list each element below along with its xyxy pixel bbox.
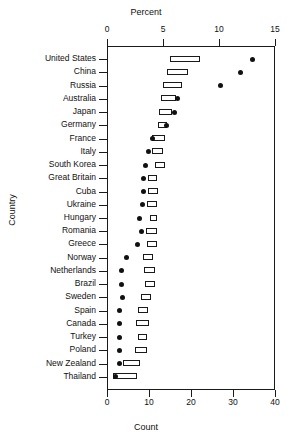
percent-point-marker — [172, 110, 177, 115]
country-axis-label: Netherlands — [50, 266, 96, 275]
country-tick-mark — [99, 178, 107, 179]
country-tick-mark — [99, 192, 107, 193]
country-axis-label: Brazil — [75, 279, 96, 288]
percent-point-marker — [143, 163, 148, 168]
count-range-bar — [159, 109, 172, 115]
percent-tick-label: 5 — [148, 24, 178, 34]
country-axis-label: Thailand — [63, 372, 96, 381]
country-axis-label: Canada — [66, 319, 96, 328]
count-tick-label: 40 — [260, 397, 290, 407]
percent-point-marker — [117, 361, 122, 366]
count-tick-mark — [233, 390, 234, 397]
count-range-bar — [150, 215, 157, 221]
country-tick-mark — [99, 125, 107, 126]
country-axis-label: Ukraine — [67, 200, 96, 209]
country-axis-label: Romania — [62, 226, 96, 235]
country-tick-mark — [99, 99, 107, 100]
count-range-bar — [145, 281, 155, 287]
country-tick-mark — [99, 337, 107, 338]
percent-point-marker — [164, 123, 169, 128]
country-axis-label: United States — [45, 54, 96, 63]
count-tick-label: 0 — [92, 397, 122, 407]
bottom-axis-title: Count — [0, 422, 292, 432]
count-range-bar — [155, 162, 165, 168]
count-range-bar — [148, 175, 157, 181]
count-tick-label: 30 — [218, 397, 248, 407]
country-tick-mark — [99, 377, 107, 378]
count-range-bar — [170, 56, 200, 62]
country-axis-label: Australia — [63, 94, 96, 103]
count-range-bar — [144, 267, 155, 273]
percent-point-marker — [117, 308, 122, 313]
country-tick-mark — [99, 271, 107, 272]
count-range-bar — [147, 201, 157, 207]
country-tick-mark — [99, 297, 107, 298]
top-axis-title: Percent — [0, 7, 292, 17]
chart-figure: Percent Country Count 010203040051015Uni… — [0, 0, 292, 441]
count-tick-mark — [149, 390, 150, 397]
country-tick-mark — [99, 350, 107, 351]
country-axis-label: Germany — [61, 120, 96, 129]
country-axis-label: Norway — [67, 253, 96, 262]
count-range-bar — [143, 254, 153, 260]
percent-tick-mark — [219, 39, 220, 46]
percent-tick-mark — [163, 39, 164, 46]
country-axis-label: Poland — [70, 345, 96, 354]
country-axis-label: South Korea — [49, 160, 96, 169]
country-tick-mark — [99, 152, 107, 153]
count-tick-mark — [275, 390, 276, 397]
country-tick-mark — [99, 284, 107, 285]
count-range-bar — [152, 148, 163, 154]
percent-tick-label: 0 — [92, 24, 122, 34]
country-axis-label: Japan — [73, 107, 96, 116]
count-tick-label: 10 — [134, 397, 164, 407]
country-axis-label: Greece — [68, 239, 96, 248]
percent-point-marker — [117, 348, 122, 353]
country-tick-mark — [99, 258, 107, 259]
percent-point-marker — [238, 70, 243, 75]
percent-tick-label: 15 — [260, 24, 290, 34]
count-range-bar — [161, 95, 176, 101]
count-range-bar — [123, 360, 140, 366]
count-range-bar — [146, 228, 157, 234]
country-tick-mark — [99, 139, 107, 140]
country-tick-mark — [99, 72, 107, 73]
country-tick-mark — [99, 86, 107, 87]
count-range-bar — [167, 69, 188, 75]
count-range-bar — [138, 334, 147, 340]
count-range-bar — [163, 82, 182, 88]
country-axis-label: Spain — [74, 306, 96, 315]
country-tick-mark — [99, 218, 107, 219]
percent-point-marker — [124, 255, 129, 260]
country-tick-mark — [99, 165, 107, 166]
country-axis-label: Great Britain — [48, 173, 96, 182]
country-tick-mark — [99, 231, 107, 232]
percent-point-marker — [135, 242, 140, 247]
count-tick-label: 20 — [176, 397, 206, 407]
country-axis-label: Italy — [80, 147, 96, 156]
country-axis-label: Turkey — [70, 332, 96, 341]
count-tick-mark — [107, 390, 108, 397]
count-range-bar — [136, 320, 149, 326]
country-axis-label: France — [70, 134, 96, 143]
percent-point-marker — [119, 282, 124, 287]
country-axis-label: China — [74, 67, 96, 76]
count-tick-mark — [191, 390, 192, 397]
country-tick-mark — [99, 112, 107, 113]
percent-tick-mark — [275, 39, 276, 46]
count-range-bar — [138, 307, 148, 313]
count-range-bar — [148, 188, 158, 194]
country-axis-label: Russia — [70, 81, 96, 90]
count-range-bar — [147, 241, 157, 247]
country-tick-mark — [99, 364, 107, 365]
percent-tick-mark — [107, 39, 108, 46]
plot-area — [107, 46, 275, 390]
country-axis-label: Sweden — [65, 292, 96, 301]
percent-point-marker — [137, 216, 142, 221]
percent-tick-label: 10 — [204, 24, 234, 34]
country-tick-mark — [99, 324, 107, 325]
percent-point-marker — [139, 229, 144, 234]
country-axis-label: Cuba — [76, 187, 96, 196]
percent-point-marker — [250, 57, 255, 62]
percent-point-marker — [117, 335, 122, 340]
